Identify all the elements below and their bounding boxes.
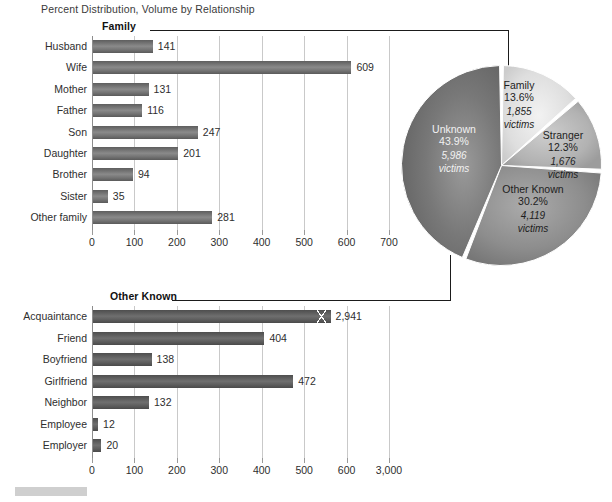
pie-label-unknown: Unknown 43.9% 5,986 victims xyxy=(416,124,492,174)
x-axis-tick-label: 600 xyxy=(338,237,356,248)
bar xyxy=(93,40,153,53)
x-axis-tick xyxy=(347,230,348,235)
pie-label-stranger-pct: 12.3% xyxy=(528,142,598,154)
pie-label-other-known-pct: 30.2% xyxy=(490,196,576,208)
axis-break-notch xyxy=(317,310,326,323)
bar-row: Daughter201 xyxy=(92,147,389,160)
bar xyxy=(93,396,149,409)
x-axis-tick xyxy=(219,230,220,235)
figure-root: Percent Distribution, Volume by Relation… xyxy=(0,0,612,502)
bar-row: Husband141 xyxy=(92,40,389,53)
plot-area-other-known: Acquaintance2,941Friend404Boyfriend138Gi… xyxy=(92,306,389,457)
bar xyxy=(93,310,331,323)
connector-family-horizontal xyxy=(150,30,509,31)
pie-label-stranger: Stranger 12.3% 1,676 victims xyxy=(528,130,598,180)
bar-value-label: 131 xyxy=(154,84,172,95)
pie-label-family-victims: 1,855 xyxy=(487,106,551,117)
bar xyxy=(93,147,178,160)
pie-chart: Family 13.6% 1,855 victims Stranger 12.3… xyxy=(398,62,605,269)
x-axis-tick xyxy=(389,230,390,235)
gridline xyxy=(389,36,390,230)
bar xyxy=(93,104,142,117)
x-axis-tick-label: 100 xyxy=(126,237,144,248)
pie-label-family-victims-unit: victims xyxy=(487,119,551,130)
x-axis-tick-label: 700 xyxy=(380,237,398,248)
x-axis-tick xyxy=(262,458,263,463)
x-axis-tick xyxy=(92,230,93,235)
bar-value-label: 116 xyxy=(147,105,164,116)
x-axis-tick xyxy=(389,458,390,463)
bar xyxy=(93,418,98,431)
bar xyxy=(93,190,108,203)
x-axis-tick xyxy=(304,458,305,463)
bar-row: Brother94 xyxy=(92,168,389,181)
x-axis-tick xyxy=(219,458,220,463)
bar-category-label: Neighbor xyxy=(44,397,87,408)
x-axis-tick-label: 100 xyxy=(126,465,144,476)
pie-label-other-known-victims: 4,119 xyxy=(490,210,576,221)
bar-value-label: 35 xyxy=(113,191,125,202)
x-axis-tick xyxy=(134,230,135,235)
bar-category-label: Friend xyxy=(57,333,87,344)
pie-label-other-known-victims-unit: victims xyxy=(490,223,576,234)
bar-value-label: 12 xyxy=(103,419,115,430)
page-title: Percent Distribution, Volume by Relation… xyxy=(41,3,255,15)
bar-category-label: Acquaintance xyxy=(23,311,87,322)
gridline xyxy=(389,306,390,458)
bar-row: Employer20 xyxy=(92,439,389,452)
bar-category-label: Mother xyxy=(54,84,87,95)
pie-label-stranger-victims: 1,676 xyxy=(528,156,598,167)
connector-other-known-horizontal xyxy=(172,300,451,301)
x-axis-tick-label: 400 xyxy=(253,465,271,476)
bar-row: Employee12 xyxy=(92,418,389,431)
chart-other-known: Acquaintance2,941Friend404Boyfriend138Gi… xyxy=(0,306,400,478)
bar-row: Friend404 xyxy=(92,332,389,345)
bar-category-label: Daughter xyxy=(44,148,87,159)
x-axis-tick-label: 3,000 xyxy=(376,465,402,476)
bar-category-label: Son xyxy=(68,127,87,138)
bar xyxy=(93,353,152,366)
pie-label-family-name: Family xyxy=(487,80,551,92)
bar-value-label: 94 xyxy=(138,169,150,180)
bar-row: Neighbor132 xyxy=(92,396,389,409)
x-axis-tick-label: 200 xyxy=(168,237,186,248)
bar-category-label: Other family xyxy=(30,212,87,223)
x-axis-tick xyxy=(134,458,135,463)
x-axis-tick xyxy=(304,230,305,235)
bar-category-label: Employee xyxy=(40,419,87,430)
bar-value-label: 201 xyxy=(183,148,201,159)
bar-value-label: 20 xyxy=(106,440,118,451)
x-axis-tick-label: 300 xyxy=(211,237,229,248)
pie-label-unknown-pct: 43.9% xyxy=(416,136,492,148)
x-axis-tick-label: 0 xyxy=(89,465,95,476)
bar-row: Boyfriend138 xyxy=(92,353,389,366)
x-axis-tick-label: 0 xyxy=(89,237,95,248)
x-axis-tick xyxy=(92,458,93,463)
bar-row: Girlfriend472 xyxy=(92,375,389,388)
x-axis-tick-label: 300 xyxy=(211,465,229,476)
plot-area-family: Husband141Wife609Mother131Father116Son24… xyxy=(92,36,389,232)
pie-label-family: Family 13.6% 1,855 victims xyxy=(487,80,551,130)
x-axis-tick xyxy=(262,230,263,235)
pie-label-stranger-victims-unit: victims xyxy=(528,169,598,180)
bar-category-label: Wife xyxy=(66,62,87,73)
bar-category-label: Husband xyxy=(45,41,87,52)
bar-row: Father116 xyxy=(92,104,389,117)
bar-category-label: Employer xyxy=(43,440,87,451)
panel-label-family: Family xyxy=(102,20,136,32)
bar-row: Mother131 xyxy=(92,83,389,96)
x-axis-tick-label: 600 xyxy=(338,465,356,476)
pie-label-other-known-name: Other Known xyxy=(490,184,576,196)
bar-row: Sister35 xyxy=(92,190,389,203)
bar-value-label: 472 xyxy=(298,376,316,387)
panel-label-other-known: Other Known xyxy=(110,290,177,302)
x-axis-tick-label: 500 xyxy=(295,465,313,476)
x-axis-tick xyxy=(177,458,178,463)
x-axis-tick xyxy=(347,458,348,463)
bar-category-label: Sister xyxy=(60,191,87,202)
bar-row: Acquaintance2,941 xyxy=(92,310,389,323)
x-axis-tick xyxy=(177,230,178,235)
pie-label-unknown-victims: 5,986 xyxy=(416,150,492,161)
bar-value-label: 138 xyxy=(157,354,175,365)
pie-label-unknown-victims-unit: victims xyxy=(416,163,492,174)
